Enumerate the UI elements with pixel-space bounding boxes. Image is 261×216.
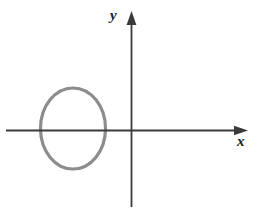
y-axis-arrow-icon	[127, 11, 137, 25]
y-axis-label: y	[110, 8, 117, 23]
coordinate-plane-graphic	[0, 0, 261, 216]
circle-curve	[41, 88, 106, 169]
x-axis-label: x	[237, 134, 245, 149]
figure-canvas: y x	[0, 0, 261, 216]
